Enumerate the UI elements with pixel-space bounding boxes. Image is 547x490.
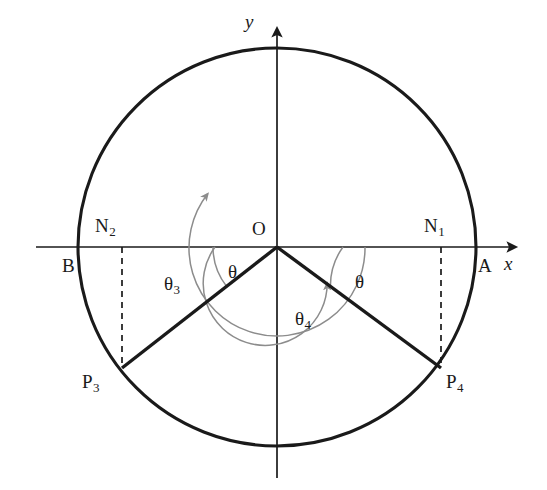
point-label-P3-sub: 3 (93, 380, 100, 395)
point-label-P4: P4 (446, 372, 464, 394)
y-axis-label: y (245, 12, 253, 31)
point-label-O: O (252, 219, 266, 238)
point-label-P4-base: P (446, 371, 457, 392)
radius-to-P3 (122, 247, 277, 368)
diagram-canvas (0, 0, 547, 490)
angle-label-theta-4-sub: 4 (305, 317, 312, 332)
point-label-N2-sub: 2 (109, 224, 116, 239)
theta-right-arc (330, 247, 343, 286)
angle-label-theta-3-sub: 3 (174, 282, 181, 297)
angle-label-theta-4: θ4 (295, 309, 311, 331)
point-label-A: A (478, 256, 492, 275)
point-label-N1-sub: 1 (438, 224, 445, 239)
angle-label-theta-3: θ3 (164, 274, 180, 296)
point-label-N1-base: N (424, 215, 438, 236)
point-label-P3-base: P (82, 371, 93, 392)
point-label-N2-base: N (95, 215, 109, 236)
theta-left-arc (213, 247, 227, 286)
point-label-P4-sub: 4 (457, 380, 464, 395)
angle-label-theta-4-base: θ (295, 308, 304, 329)
point-label-N2: N2 (95, 216, 116, 238)
point-label-N1: N1 (424, 216, 445, 238)
angle-label-theta-left: θ (228, 262, 237, 281)
point-label-B: B (62, 256, 75, 275)
angle-label-theta-right: θ (355, 272, 364, 291)
geometry-figure: y x O A B N1 N2 P3 P4 θ θ θ3 θ4 (0, 0, 547, 490)
x-axis-label: x (504, 254, 512, 273)
point-label-P3: P3 (82, 372, 100, 394)
angle-label-theta-3-base: θ (164, 273, 173, 294)
